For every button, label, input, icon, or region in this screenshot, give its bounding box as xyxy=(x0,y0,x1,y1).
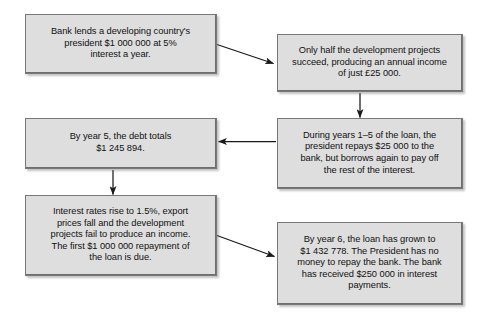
year-5-debt-box[interactable]: By year 5, the debt totals $1 245 894. xyxy=(25,118,217,169)
projects-succeed-box[interactable]: Only half the development projects succe… xyxy=(277,34,463,92)
year-6-loan-box[interactable]: By year 6, the loan has grown to $1 432 … xyxy=(277,222,463,305)
year-5-debt-text: By year 5, the debt totals $1 245 894. xyxy=(32,131,209,154)
connector-bank-to-projects xyxy=(217,45,274,64)
interest-rates-rise-box[interactable]: Interest rates rise to 1.5%, export pric… xyxy=(25,195,217,276)
repayment-years-box[interactable]: During years 1–5 of the loan, the presid… xyxy=(277,118,463,189)
connector-rates-to-year6 xyxy=(217,236,275,257)
bank-lends-box[interactable]: Bank lends a developing country's presid… xyxy=(25,14,217,74)
bank-lends-text: Bank lends a developing country's presid… xyxy=(32,26,209,61)
year-6-loan-text: By year 6, the loan has grown to $1 432 … xyxy=(284,234,455,292)
projects-succeed-text: Only half the development projects succe… xyxy=(284,45,455,80)
flowchart-canvas: Bank lends a developing country's presid… xyxy=(0,0,484,320)
interest-rates-rise-text: Interest rates rise to 1.5%, export pric… xyxy=(32,206,209,264)
repayment-years-text: During years 1–5 of the loan, the presid… xyxy=(284,130,455,176)
